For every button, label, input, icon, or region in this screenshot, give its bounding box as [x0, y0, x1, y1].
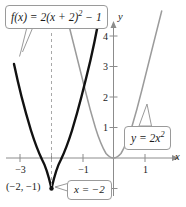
y-tick-label-3: 3: [99, 62, 108, 72]
callout-parent-function-exponent: 2: [160, 130, 164, 139]
y-tick-label-1: 1: [99, 123, 108, 133]
x-tick-label-neg3: −3: [13, 165, 28, 175]
callout-transformed-function-suffix: − 1: [82, 11, 101, 23]
x-tick-label-pos1: 1: [139, 165, 152, 175]
callout-parent-function-prefix: y = 2x: [131, 132, 160, 144]
y-tick-label-2: 2: [99, 93, 108, 103]
x-tick-label-neg1: −1: [76, 165, 91, 175]
callout-parent-function: y = 2x2: [124, 126, 171, 150]
leader-line-parent: [139, 104, 152, 126]
plot-canvas: [0, 0, 186, 207]
vertex-marker-dot: [49, 186, 53, 190]
x-axis: [6, 154, 179, 162]
callout-transformed-function-prefix: f(x) = 2(x + 2): [11, 11, 78, 23]
y-axis: [110, 21, 118, 196]
callout-transformed-function: f(x) = 2(x + 2)2 − 1: [5, 5, 108, 29]
y-tick-label-4: 4: [99, 32, 108, 42]
leader-line-transformed: [20, 27, 34, 57]
x-axis-label: x: [175, 152, 180, 163]
leader-line-axis-of-symmetry: [55, 184, 68, 192]
quadratic-graph-figure: f(x) = 2(x + 2)2 − 1 y = 2x2 x = −2 (−2,…: [0, 0, 186, 207]
callout-axis-of-symmetry: x = −2: [67, 180, 112, 200]
vertex-coordinate-label: (−2, −1): [6, 182, 41, 193]
y-axis-label: y: [118, 12, 123, 23]
